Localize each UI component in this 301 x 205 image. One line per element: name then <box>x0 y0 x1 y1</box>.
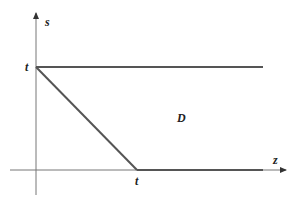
region-label: D <box>176 111 186 125</box>
s-axis-label: s <box>44 15 50 29</box>
z-axis-label: z <box>272 153 278 167</box>
diagram-canvas: s z t t D <box>0 0 301 205</box>
diagonal-boundary <box>36 67 137 170</box>
z-intercept-label: t <box>135 174 139 188</box>
region-diagram: s z t t D <box>0 0 301 205</box>
s-intercept-label: t <box>25 60 29 74</box>
